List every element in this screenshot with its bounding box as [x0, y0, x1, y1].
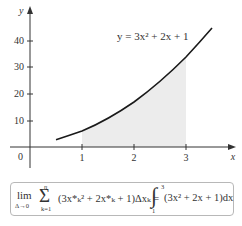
integral-lower-bound: 1 — [152, 207, 155, 214]
sum-lower-bound: k=1 — [41, 205, 51, 212]
summand: (3x*ₖ² + 2x*ₖ + 1)Δxₖ = — [58, 192, 159, 204]
integrand: (3x² + 2x + 1)dx — [164, 192, 233, 203]
y-tick-label-10: 10 — [14, 115, 24, 126]
sum-upper-bound: n — [44, 183, 47, 190]
y-tick-label-20: 20 — [14, 88, 24, 99]
integral-upper-bound: 3 — [161, 183, 164, 190]
x-axis-label: x — [230, 151, 236, 162]
x-tick-label-2: 2 — [132, 152, 137, 163]
x-tick-label-1: 1 — [80, 152, 85, 163]
curve-label: y = 3x² + 2x + 1 — [117, 30, 188, 42]
graph: 10 20 30 40 0 1 2 3 x y y = 3x² + 2x + 1 — [0, 0, 242, 182]
limit-operator: lim — [17, 189, 32, 201]
riemann-sum-formula: lim Δ→0 Σ n k=1 (3x*ₖ² + 2x*ₖ + 1)Δxₖ = … — [10, 182, 234, 216]
y-axis-arrow-icon — [27, 6, 33, 14]
x-axis-arrow-icon — [228, 144, 236, 150]
y-axis-label: y — [18, 5, 24, 16]
limit-subscript: Δ→0 — [15, 202, 29, 209]
x-tick-label-3: 3 — [184, 152, 189, 163]
y-tick-label-30: 30 — [14, 61, 24, 72]
origin-label: 0 — [18, 151, 23, 162]
integral-icon: ∫ — [151, 183, 157, 209]
y-tick-label-40: 40 — [14, 35, 24, 46]
